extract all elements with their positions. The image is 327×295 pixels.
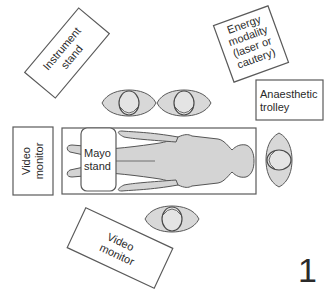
or-layout-diagram: Instrument stand Energy modality (laser … bbox=[0, 0, 327, 295]
anaesthetic-trolley: Anaesthetic trolley bbox=[256, 80, 323, 120]
mayo-stand-label-1: Mayo bbox=[84, 147, 111, 159]
staff-member-top-left bbox=[102, 90, 156, 116]
anaesthetic-trolley-label-1: Anaesthetic bbox=[260, 88, 318, 100]
instrument-stand: Instrument stand bbox=[25, 8, 110, 98]
figure-number: 1 bbox=[298, 251, 317, 289]
staff-member-top-right bbox=[157, 90, 211, 116]
video-monitor-left-label-1: Video bbox=[20, 147, 32, 175]
anaesthetic-trolley-label-2: trolley bbox=[260, 101, 290, 113]
staff-member-bottom bbox=[145, 206, 199, 232]
video-monitor-left: Video monitor bbox=[13, 127, 53, 195]
staff-member-anaesthetist bbox=[266, 133, 292, 187]
video-monitor-left-label-2: monitor bbox=[33, 142, 45, 179]
mayo-stand: Mayo stand bbox=[81, 128, 116, 191]
energy-modality-unit: Energy modality (laser or cautery) bbox=[213, 6, 288, 82]
mayo-stand-label-2: stand bbox=[84, 160, 111, 172]
